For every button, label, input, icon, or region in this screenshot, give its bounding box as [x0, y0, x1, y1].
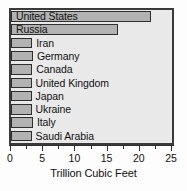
- bar-label: Saudi Arabia: [36, 130, 94, 143]
- bar-label: Italy: [37, 116, 56, 129]
- bar-row: Germany: [11, 50, 172, 63]
- bar-row: Japan: [11, 90, 172, 103]
- x-axis-title: Trillion Cubic Feet: [0, 167, 187, 179]
- bar-row: Saudi Arabia: [11, 130, 172, 143]
- bar: [11, 51, 33, 62]
- plot-area: United StatesRussiaIranGermanyCanadaUnit…: [9, 8, 174, 145]
- x-tick-label: 10: [69, 152, 81, 164]
- bar: [11, 104, 32, 115]
- x-tick-minor: [155, 145, 156, 149]
- bar-row: Canada: [11, 63, 172, 76]
- bar: [11, 78, 32, 89]
- x-tick-major: [42, 145, 43, 151]
- bar-row: Italy: [11, 116, 172, 129]
- x-tick-label: 20: [133, 152, 145, 164]
- bar-row: Iran: [11, 37, 172, 50]
- bar-label: Canada: [36, 63, 72, 76]
- x-tick-major: [10, 145, 11, 151]
- bar-row: United States: [11, 10, 172, 23]
- bar-label: United Kingdom: [36, 77, 109, 90]
- bar: [11, 64, 32, 75]
- bar-row: United Kingdom: [11, 77, 172, 90]
- bar-label: Japan: [36, 90, 64, 103]
- x-tick-label: 15: [101, 152, 113, 164]
- bar-row: Ukraine: [11, 103, 172, 116]
- x-tick-minor: [123, 145, 124, 149]
- x-tick-major: [107, 145, 108, 151]
- x-tick-minor: [26, 145, 27, 149]
- bar: [11, 117, 33, 128]
- x-axis-line: [9, 145, 174, 146]
- x-tick-label: 0: [7, 152, 13, 164]
- x-tick-major: [74, 145, 75, 151]
- x-tick-minor: [58, 145, 59, 149]
- x-tick-major: [171, 145, 172, 151]
- bar: [11, 38, 32, 49]
- x-tick-label: 5: [39, 152, 45, 164]
- x-tick-label: 25: [165, 152, 177, 164]
- bar: [11, 91, 32, 102]
- x-tick-major: [139, 145, 140, 151]
- bar-label: Russia: [16, 23, 48, 36]
- bar: [11, 131, 32, 142]
- bars-layer: United StatesRussiaIranGermanyCanadaUnit…: [11, 10, 172, 143]
- bar-label: United States: [16, 10, 78, 23]
- bar-row: Russia: [11, 23, 172, 36]
- bar-label: Germany: [37, 50, 79, 63]
- bar-chart: United StatesRussiaIranGermanyCanadaUnit…: [0, 0, 187, 191]
- bar-label: Ukraine: [36, 103, 71, 116]
- bar-label: Iran: [36, 37, 54, 50]
- x-tick-minor: [91, 145, 92, 149]
